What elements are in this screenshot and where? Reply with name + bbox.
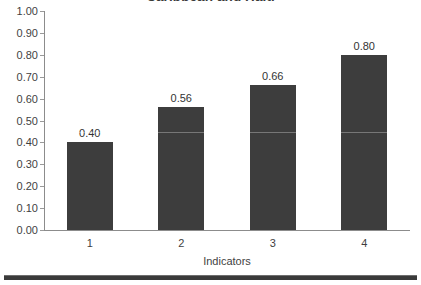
y-tick	[40, 164, 44, 165]
x-axis-title: Indicators	[44, 255, 410, 267]
y-axis-line	[44, 11, 45, 231]
chart-screenshot: Caribbean and Haiti 1.000.900.800.700.60…	[0, 0, 421, 285]
y-axis-tick-label: 0.20	[4, 181, 38, 192]
bar-value-label: 0.40	[53, 128, 127, 139]
y-axis-tick-label: 1.00	[4, 6, 38, 17]
y-tick	[40, 208, 44, 209]
bar[interactable]	[250, 85, 296, 230]
x-axis-tick-label: 4	[327, 238, 401, 249]
y-tick	[40, 121, 44, 122]
plot-area: 0.400.560.660.80	[44, 11, 410, 231]
bottom-divider	[4, 275, 417, 280]
y-axis-tick-label: 0.10	[4, 203, 38, 214]
y-axis-tick-label: 0.70	[4, 72, 38, 83]
y-tick	[40, 230, 44, 231]
bar-value-label: 0.80	[327, 41, 401, 52]
y-axis-tick-label: 0.40	[4, 137, 38, 148]
chart-title: Caribbean and Haiti	[0, 0, 421, 4]
bar[interactable]	[341, 55, 387, 230]
x-axis-tick-label: 1	[53, 238, 127, 249]
y-axis-tick-label: 0.90	[4, 28, 38, 39]
y-axis-tick-label: 0.30	[4, 159, 38, 170]
y-axis-tick-label: 0.80	[4, 50, 38, 61]
y-axis-tick-label: 0.60	[4, 94, 38, 105]
y-tick	[40, 55, 44, 56]
bar[interactable]	[158, 107, 204, 230]
y-tick	[40, 11, 44, 12]
y-tick	[40, 186, 44, 187]
y-tick	[40, 33, 44, 34]
bar[interactable]	[67, 142, 113, 230]
bar-value-label: 0.56	[144, 93, 218, 104]
y-tick	[40, 99, 44, 100]
y-tick	[40, 142, 44, 143]
bar-value-label: 0.66	[236, 71, 310, 82]
y-axis-tick-label: 0.50	[4, 116, 38, 127]
x-axis-tick-label: 3	[236, 238, 310, 249]
y-axis-tick-label: 0.00	[4, 225, 38, 236]
x-axis-line	[44, 230, 410, 231]
y-axis-labels: 1.000.900.800.700.600.500.400.300.200.10…	[0, 11, 38, 231]
x-axis-tick-label: 2	[144, 238, 218, 249]
y-tick	[40, 77, 44, 78]
